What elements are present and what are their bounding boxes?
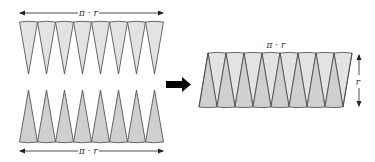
sector	[92, 21, 110, 74]
top-width-label: π · r	[78, 8, 98, 18]
sector	[74, 21, 92, 74]
sector	[110, 21, 128, 74]
sector	[56, 21, 74, 74]
top-width-dimension: π · r	[20, 8, 163, 18]
sector	[74, 90, 92, 143]
sector	[92, 90, 110, 143]
sector-rearrangement-diagram: π · r π · r π · r r	[0, 0, 375, 162]
bottom-sector-row	[20, 90, 164, 143]
sector	[20, 21, 38, 74]
right-arrow-icon	[166, 77, 191, 92]
sector	[20, 90, 38, 143]
result-width-label: π · r	[266, 40, 286, 50]
result-parallelogram	[199, 52, 352, 107]
sector	[110, 90, 128, 143]
bottom-width-dimension: π · r	[20, 146, 163, 156]
result-height-dimension: r	[356, 55, 361, 106]
sector	[56, 90, 74, 143]
result-height-label: r	[356, 77, 361, 87]
sector	[128, 21, 146, 74]
sector	[146, 21, 164, 74]
sector	[128, 90, 146, 143]
sector	[38, 90, 56, 143]
sector	[38, 21, 56, 74]
sector	[146, 90, 164, 143]
bottom-width-label: π · r	[78, 146, 98, 156]
top-sector-row	[20, 21, 164, 74]
